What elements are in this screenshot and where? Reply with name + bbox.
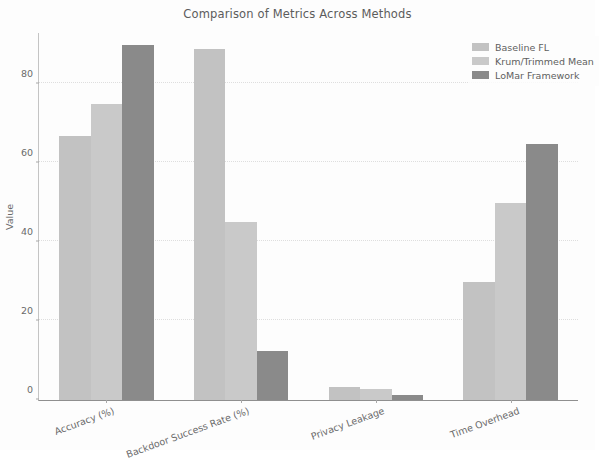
y-tick-label: 40 (21, 226, 33, 237)
legend-swatch-icon (472, 43, 489, 51)
legend-item: Krum/Trimmed Mean (472, 54, 594, 68)
y-axis-title: Value (4, 203, 15, 229)
legend-label: LoMar Framework (495, 70, 579, 81)
chart-legend: Baseline FLKrum/Trimmed MeanLoMar Framew… (468, 36, 599, 86)
bar (495, 203, 526, 400)
y-tick-label: 80 (21, 68, 33, 79)
bar (59, 136, 90, 400)
x-tick-mark (511, 400, 512, 403)
x-tick-mark (376, 400, 377, 403)
bar (257, 351, 288, 400)
x-tick-label: Backdoor Success Rate (%) (125, 405, 251, 460)
bar (122, 45, 153, 400)
x-tick-label: Privacy Leakage (309, 405, 385, 442)
bar (91, 104, 122, 400)
legend-label: Baseline FL (495, 42, 549, 53)
bar (194, 49, 225, 400)
legend-swatch-icon (472, 71, 489, 79)
legend-swatch-icon (472, 57, 489, 65)
bar (360, 389, 391, 400)
bar (463, 282, 494, 400)
chart-title: Comparison of Metrics Across Methods (0, 7, 595, 21)
plot-area: 020406080 Value Accuracy (%)Backdoor Suc… (38, 33, 578, 401)
bar (329, 387, 360, 400)
bar (225, 222, 256, 400)
x-tick-mark (241, 400, 242, 403)
y-tick-label: 60 (21, 147, 33, 158)
bars-layer (39, 33, 578, 400)
bar (392, 395, 423, 400)
x-tick-label: Accuracy (%) (53, 405, 116, 437)
x-tick-label: Time Overhead (448, 405, 520, 440)
bar (526, 144, 557, 401)
legend-label: Krum/Trimmed Mean (495, 56, 594, 67)
y-tick-label: 20 (21, 305, 33, 316)
y-tick-label: 0 (27, 384, 33, 395)
legend-item: Baseline FL (472, 40, 594, 54)
x-tick-mark (106, 400, 107, 403)
legend-item: LoMar Framework (472, 68, 594, 82)
